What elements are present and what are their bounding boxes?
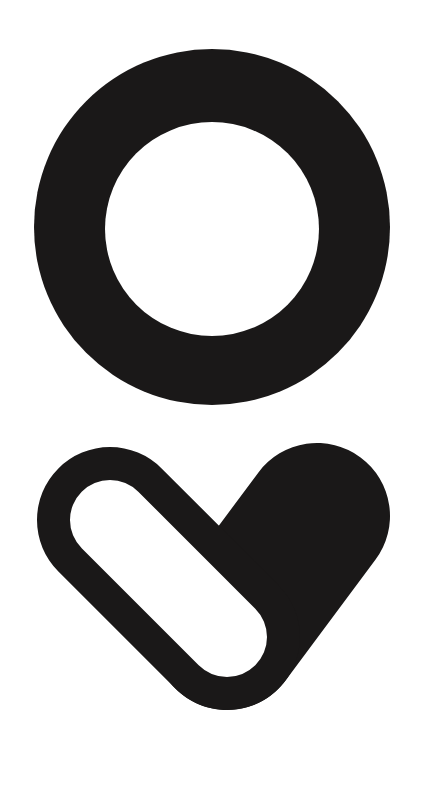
- heart-icon: [110, 516, 317, 637]
- logo-canvas: [0, 0, 431, 796]
- ring-icon: [34, 49, 390, 405]
